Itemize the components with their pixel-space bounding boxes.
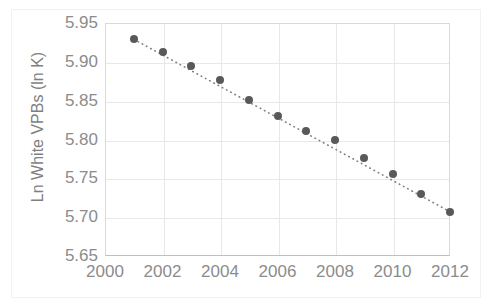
gridline-vertical <box>164 24 165 255</box>
y-axis-tick-label: 5.90 <box>52 52 98 72</box>
y-axis-tick-label: 5.75 <box>52 168 98 188</box>
gridline-horizontal <box>106 63 449 64</box>
gridline-vertical <box>394 24 395 255</box>
data-point-marker <box>159 48 167 56</box>
data-point-marker <box>274 112 282 120</box>
chart-figure: 5.955.905.855.805.755.705.65 20002002200… <box>0 0 492 308</box>
gridline-horizontal <box>106 141 449 142</box>
data-point-marker <box>389 170 397 178</box>
y-axis-tick-label: 5.85 <box>52 91 98 111</box>
x-axis-tick-label: 2002 <box>144 262 182 282</box>
gridline-horizontal <box>106 102 449 103</box>
gridline-horizontal <box>106 179 449 180</box>
x-axis-tick-label: 2010 <box>374 262 412 282</box>
x-axis-tick-label: 2006 <box>259 262 297 282</box>
x-axis-tick-label: 2008 <box>316 262 354 282</box>
data-point-marker <box>446 208 454 216</box>
gridline-vertical <box>221 24 222 255</box>
plot-area <box>105 23 450 256</box>
x-axis-tick-label: 2000 <box>86 262 124 282</box>
gridline-horizontal <box>106 218 449 219</box>
y-axis-tick-label: 5.70 <box>52 207 98 227</box>
y-axis-tick-label: 5.95 <box>52 13 98 33</box>
x-axis-tick-label: 2004 <box>201 262 239 282</box>
x-axis-tick-label: 2012 <box>431 262 469 282</box>
data-point-marker <box>331 136 339 144</box>
y-axis-title: Ln White VPBs (ln K) <box>29 27 47 227</box>
x-axis-tick-labels: 2000200220042006200820102012 <box>0 262 492 288</box>
gridline-vertical <box>279 24 280 255</box>
y-axis-tick-label: 5.80 <box>52 130 98 150</box>
data-point-marker <box>360 154 368 162</box>
data-point-marker <box>245 96 253 104</box>
